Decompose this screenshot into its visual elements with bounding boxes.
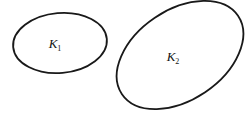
region-k1-label-subscript: 1	[57, 44, 61, 53]
figure-canvas: K1 K2	[0, 0, 251, 115]
figure-container: K1 K2	[0, 0, 251, 115]
region-k2-label-subscript: 2	[175, 57, 179, 66]
